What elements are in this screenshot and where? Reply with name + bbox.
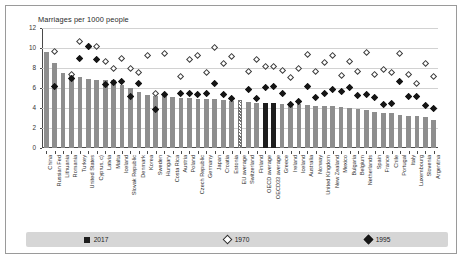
- x-tick-mark: [55, 151, 56, 154]
- x-tick-mark: [316, 151, 317, 154]
- x-tick-mark: [333, 151, 334, 154]
- data-column: [160, 28, 168, 148]
- data-column: [93, 28, 101, 148]
- x-axis-label: United Kingdom: [326, 155, 332, 195]
- data-column: [135, 28, 143, 148]
- bar-2017: [322, 106, 327, 148]
- x-axis-label: Bulgaria: [352, 155, 358, 176]
- x-axis-label: United States: [90, 155, 96, 189]
- data-column: [177, 28, 185, 148]
- data-column: [261, 28, 269, 148]
- data-column: [396, 28, 404, 148]
- marker-1970: [135, 69, 142, 76]
- bar-2017: [347, 108, 352, 148]
- data-column: [421, 28, 429, 148]
- y-tick-label: 0: [16, 144, 36, 151]
- data-column: [354, 28, 362, 148]
- bar-2017: [381, 113, 386, 148]
- bar-2017: [254, 103, 259, 148]
- data-column: [286, 28, 294, 148]
- x-tick-mark: [392, 151, 393, 154]
- marker-1970: [337, 72, 344, 79]
- x-tick-mark: [147, 151, 148, 154]
- marker-1970: [413, 80, 420, 87]
- marker-1970: [203, 69, 210, 76]
- marker-1995: [245, 86, 252, 93]
- marker-1970: [278, 67, 285, 74]
- x-axis-label: Ireland: [293, 155, 299, 172]
- data-column: [67, 28, 75, 148]
- x-axis-label: Switzerland: [250, 155, 256, 184]
- x-tick-mark: [240, 151, 241, 154]
- marker-1995: [304, 83, 311, 90]
- bar-2017: [415, 116, 420, 148]
- x-tick-mark: [88, 151, 89, 154]
- x-tick-mark: [265, 151, 266, 154]
- x-axis-label: Czech Republic: [200, 155, 206, 194]
- data-column: [50, 28, 58, 148]
- marker-1995: [337, 88, 344, 95]
- x-tick-mark: [97, 151, 98, 154]
- x-axis-label: Poland: [191, 155, 197, 172]
- bar-2017: [356, 109, 361, 148]
- x-axis-label: Norway: [318, 155, 324, 174]
- bar-2017: [238, 100, 243, 148]
- x-axis-label: OECD average: [267, 155, 273, 193]
- data-column: [42, 28, 50, 148]
- x-tick-mark: [291, 151, 292, 154]
- bar-2017: [423, 117, 428, 148]
- legend-open-diamond-icon: [222, 235, 232, 245]
- x-axis-label: Croatia: [225, 155, 231, 173]
- marker-1970: [194, 52, 201, 59]
- x-tick-mark: [358, 151, 359, 154]
- x-axis-label: Lithuania: [65, 155, 71, 178]
- x-tick-mark: [173, 151, 174, 154]
- x-axis-label: Greece: [284, 155, 290, 173]
- marker-1970: [211, 44, 218, 51]
- x-tick-mark: [282, 151, 283, 154]
- data-column: [379, 28, 387, 148]
- bar-2017: [111, 80, 116, 148]
- data-column: [387, 28, 395, 148]
- data-column: [202, 28, 210, 148]
- legend-label: 1970: [235, 236, 250, 243]
- x-axis-label: Austria: [183, 155, 189, 172]
- x-axis-label: Spain: [377, 155, 383, 169]
- x-tick-mark: [257, 151, 258, 154]
- x-axis-label: Portugal: [402, 155, 408, 176]
- bar-2017: [78, 77, 83, 148]
- x-axis-label: Slovak Republic: [132, 155, 138, 195]
- marker-1995: [203, 90, 210, 97]
- bar-2017: [94, 80, 99, 148]
- marker-1970: [262, 63, 269, 70]
- x-tick-mark: [248, 151, 249, 154]
- marker-1995: [354, 92, 361, 99]
- marker-1970: [388, 69, 395, 76]
- marker-1970: [312, 68, 319, 75]
- bar-2017: [398, 115, 403, 148]
- data-column: [118, 28, 126, 148]
- bar-2017: [170, 97, 175, 148]
- x-tick-mark: [324, 151, 325, 154]
- bar-2017: [69, 75, 74, 148]
- marker-1970: [127, 65, 134, 72]
- marker-1970: [422, 60, 429, 67]
- x-axis-label: Chile: [394, 155, 400, 168]
- x-axis-label: France: [385, 155, 391, 172]
- data-column: [126, 28, 134, 148]
- x-axis-label: Latvia: [107, 155, 113, 170]
- data-column: [345, 28, 353, 148]
- data-column: [328, 28, 336, 148]
- x-tick-mark: [181, 151, 182, 154]
- data-column: [227, 28, 235, 148]
- x-axis-label: Romania: [73, 155, 79, 177]
- x-tick-mark: [350, 151, 351, 154]
- bar-2017: [263, 103, 268, 148]
- x-axis-label: Germany: [208, 155, 214, 178]
- marker-1970: [371, 71, 378, 78]
- marker-1970: [245, 68, 252, 75]
- x-tick-mark: [400, 151, 401, 154]
- x-tick-mark: [164, 151, 165, 154]
- y-tick-label: 12: [16, 24, 36, 31]
- marker-1995: [363, 91, 370, 98]
